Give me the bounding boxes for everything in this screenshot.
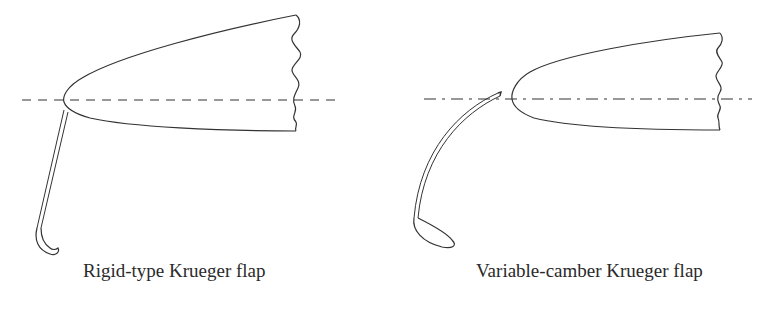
flap-bullnose-right	[414, 218, 455, 248]
flap-panel-right-a	[414, 93, 498, 218]
flap-panel-right-b	[418, 96, 500, 218]
wing-section-left	[64, 15, 296, 131]
flap-arm-left-b	[41, 112, 68, 228]
flap-arm-left-a	[37, 110, 64, 228]
caption-variable-camber-krueger: Variable-camber Krueger flap	[476, 260, 703, 282]
variable-panel	[414, 33, 752, 248]
break-line-right	[716, 33, 722, 130]
flap-tip-right	[498, 92, 501, 96]
caption-rigid-krueger: Rigid-type Krueger flap	[83, 260, 266, 282]
rigid-panel	[22, 15, 336, 255]
krueger-flap-figure: Rigid-type Krueger flap Variable-camber …	[0, 0, 782, 309]
wing-section-right	[512, 33, 720, 130]
flap-hook-left	[36, 228, 58, 255]
break-line-left	[292, 15, 301, 131]
